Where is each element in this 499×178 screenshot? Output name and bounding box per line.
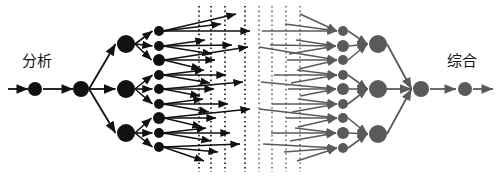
analysis-leaf-node bbox=[154, 26, 164, 36]
synthesis-fanin-arrow bbox=[299, 60, 337, 69]
analysis-fanout-arrow bbox=[163, 24, 221, 31]
analysis-leaf-node bbox=[154, 142, 164, 152]
analysis-leaf-node bbox=[154, 70, 164, 80]
analysis-fanout-arrow bbox=[163, 82, 243, 89]
analysis-fanout-arrow bbox=[163, 89, 200, 96]
edge-branch-to-hub bbox=[387, 89, 412, 134]
edge-leaf-to-branch bbox=[348, 75, 368, 89]
edge-leaf-to-branch bbox=[348, 118, 368, 134]
synthesis-leaf-node bbox=[338, 55, 348, 65]
synthesis-leaf-node bbox=[338, 113, 348, 123]
edge-branch-to-leaf bbox=[135, 31, 153, 44]
edge-leaf-to-branch bbox=[348, 134, 368, 148]
analysis-leaf-node bbox=[154, 128, 164, 138]
edge-hub-to-branch bbox=[89, 44, 116, 89]
synthesis-leaf-node bbox=[338, 26, 348, 36]
analysis-leaf-node bbox=[153, 112, 165, 124]
synthesis-fanin-arrow bbox=[300, 89, 336, 96]
analysis-synthesis-diagram bbox=[0, 0, 499, 178]
analysis-branch-node bbox=[117, 35, 135, 53]
diagram-canvas: 分析 综合 bbox=[0, 0, 499, 178]
synthesis-branch-node bbox=[369, 80, 387, 98]
edge-hub-to-branch bbox=[89, 89, 116, 133]
synthesis-leaf-node bbox=[338, 99, 348, 109]
synthesis-leaf-node bbox=[337, 83, 349, 95]
analysis-fanout-arrow bbox=[163, 144, 240, 147]
synthesis-root-node bbox=[458, 82, 472, 96]
edge-branch-to-leaf bbox=[135, 118, 152, 133]
analysis-leaf-node bbox=[154, 99, 164, 109]
synthesis-leaf-node bbox=[338, 70, 348, 80]
synthesis-fanin-arrow bbox=[291, 75, 337, 83]
edge-branch-to-leaf bbox=[135, 89, 153, 104]
synthesis-fanin-arrow bbox=[298, 118, 337, 127]
analysis-leaf-node bbox=[153, 54, 165, 66]
analysis-hub-node bbox=[73, 81, 89, 97]
synthesis-leaf-node bbox=[337, 40, 349, 52]
synthesis-hub-node bbox=[413, 81, 429, 97]
analysis-fanout-arrow bbox=[164, 109, 250, 118]
synthesis-leaf-node bbox=[338, 143, 348, 153]
edge-leaf-to-branch bbox=[349, 133, 368, 134]
edge-leaf-to-branch bbox=[348, 89, 368, 104]
analysis-fanout-arrow bbox=[164, 60, 201, 69]
synthesis-fanin-arrow bbox=[292, 104, 337, 112]
analysis-fanout-arrow bbox=[164, 118, 202, 127]
analysis-fanout-arrow bbox=[163, 75, 210, 83]
analysis-fanout-arrow bbox=[163, 45, 232, 46]
analysis-fanout-arrow bbox=[163, 104, 209, 112]
analysis-root-node bbox=[28, 82, 42, 96]
edge-branch-to-leaf bbox=[135, 75, 153, 89]
analysis-branch-node bbox=[117, 80, 135, 98]
edge-leaf-to-branch bbox=[348, 31, 368, 44]
analysis-leaf-node bbox=[154, 84, 164, 94]
analysis-branch-node bbox=[117, 124, 135, 142]
analysis-leaf-node bbox=[154, 41, 164, 51]
edge-branch-to-leaf bbox=[135, 133, 153, 147]
edge-branch-to-hub bbox=[387, 44, 412, 89]
label-synthesis: 综合 bbox=[447, 54, 477, 69]
synthesis-branch-node bbox=[369, 125, 387, 143]
label-analysis: 分析 bbox=[22, 54, 52, 69]
analysis-fanout-arrow bbox=[163, 46, 212, 54]
synthesis-leaf-node bbox=[337, 127, 349, 139]
synthesis-fanin-arrow bbox=[290, 133, 336, 141]
synthesis-fanin-arrow bbox=[270, 45, 336, 46]
synthesis-branch-node bbox=[369, 35, 387, 53]
synthesis-fanin-arrow bbox=[259, 47, 337, 60]
analysis-fanout-arrow bbox=[163, 133, 211, 141]
